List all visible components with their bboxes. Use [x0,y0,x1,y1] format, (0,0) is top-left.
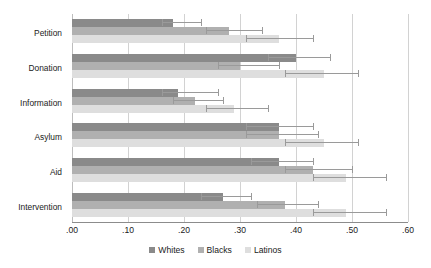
error-cap-high-donation-latinos [358,70,359,77]
bar-intervention-blacks [72,201,285,209]
error-cap-low-aid-whites [251,158,252,165]
legend-item-whites[interactable]: Whites [149,245,184,255]
bar-aid-whites [72,158,279,166]
bar-row-intervention-whites [72,193,408,201]
bar-group-intervention [72,193,408,217]
legend-label-whites: Whites [158,245,184,255]
error-cap-low-asylum-whites [246,123,247,130]
bar-donation-latinos [72,70,324,78]
x-tick-label-.30: .30 [234,225,246,235]
error-cap-low-intervention-latinos [313,209,314,216]
error-bar-aid-blacks [285,169,352,170]
error-cap-high-asylum-whites [313,123,314,130]
error-bar-intervention-blacks [257,204,319,205]
bar-information-latinos [72,105,234,113]
bar-row-petition-blacks [72,27,408,35]
bar-row-aid-whites [72,158,408,166]
category-label-information: Information [0,98,62,108]
error-cap-high-asylum-blacks [318,131,319,138]
bar-row-petition-whites [72,19,408,27]
error-bar-donation-blacks [218,65,280,66]
error-bar-information-latinos [206,108,268,109]
bar-group-information [72,89,408,113]
bar-row-asylum-blacks [72,131,408,139]
error-cap-low-information-latinos [206,105,207,112]
legend-swatch-whites [149,247,155,253]
x-axis-tick-labels: .00.10.20.30.40.50.60 [72,225,408,239]
legend-swatch-blacks [198,247,204,253]
category-label-petition: Petition [0,28,62,38]
error-cap-high-petition-whites [201,19,202,26]
error-cap-low-donation-blacks [218,62,219,69]
error-bar-asylum-latinos [285,142,358,143]
error-bar-aid-latinos [313,177,386,178]
chart-legend: WhitesBlacksLatinos [0,245,431,255]
bar-donation-whites [72,54,296,62]
error-bar-petition-blacks [206,30,262,31]
error-bar-intervention-latinos [313,212,386,213]
error-cap-high-intervention-latinos [386,209,387,216]
error-cap-high-asylum-latinos [358,139,359,146]
error-cap-high-aid-whites [313,158,314,165]
x-tick-label-.50: .50 [346,225,358,235]
bar-aid-blacks [72,166,313,174]
bar-row-donation-blacks [72,62,408,70]
bar-row-petition-latinos [72,35,408,43]
bar-group-donation [72,54,408,78]
x-tick-label-.10: .10 [122,225,134,235]
error-cap-low-donation-latinos [285,70,286,77]
bar-group-asylum [72,123,408,147]
category-label-aid: Aid [0,167,62,177]
error-cap-low-information-whites [162,89,163,96]
bar-petition-latinos [72,35,279,43]
bar-row-donation-latinos [72,70,408,78]
error-cap-low-aid-latinos [313,174,314,181]
error-bar-intervention-whites [201,196,251,197]
bar-row-asylum-latinos [72,139,408,147]
error-bar-asylum-blacks [246,134,319,135]
legend-item-blacks[interactable]: Blacks [198,245,232,255]
error-cap-high-aid-latinos [386,174,387,181]
error-cap-low-petition-whites [162,19,163,26]
error-cap-low-petition-latinos [246,35,247,42]
error-cap-low-intervention-whites [201,193,202,200]
error-cap-high-petition-blacks [262,27,263,34]
error-bar-donation-whites [268,57,330,58]
legend-item-latinos[interactable]: Latinos [245,245,282,255]
error-cap-high-intervention-blacks [318,201,319,208]
bar-row-intervention-blacks [72,201,408,209]
error-bar-information-blacks [173,100,223,101]
legend-label-blacks: Blacks [207,245,232,255]
error-cap-high-information-whites [218,89,219,96]
category-axis: PetitionDonationInformationAsylumAidInte… [0,16,66,222]
bar-information-blacks [72,97,195,105]
error-cap-high-information-latinos [268,105,269,112]
bar-asylum-blacks [72,131,279,139]
bar-asylum-whites [72,123,279,131]
error-cap-low-donation-whites [268,54,269,61]
error-cap-low-aid-blacks [285,166,286,173]
error-cap-low-petition-blacks [206,27,207,34]
bar-row-asylum-whites [72,123,408,131]
x-tick-label-.20: .20 [178,225,190,235]
bar-row-information-whites [72,89,408,97]
bar-row-aid-latinos [72,174,408,182]
error-bar-petition-whites [162,22,201,23]
bar-row-intervention-latinos [72,209,408,217]
error-cap-high-intervention-whites [251,193,252,200]
bar-donation-blacks [72,62,240,70]
error-bar-aid-whites [251,161,313,162]
bar-intervention-latinos [72,209,346,217]
bar-asylum-latinos [72,139,324,147]
bar-group-petition [72,19,408,43]
error-cap-high-donation-whites [330,54,331,61]
error-bar-petition-latinos [246,38,313,39]
bar-group-aid [72,158,408,182]
error-bar-asylum-whites [246,126,313,127]
error-cap-high-petition-latinos [313,35,314,42]
category-label-intervention: Intervention [0,202,62,212]
x-axis-line [72,222,408,223]
error-cap-low-information-blacks [173,97,174,104]
bars-layer [72,14,408,222]
bar-aid-latinos [72,174,346,182]
